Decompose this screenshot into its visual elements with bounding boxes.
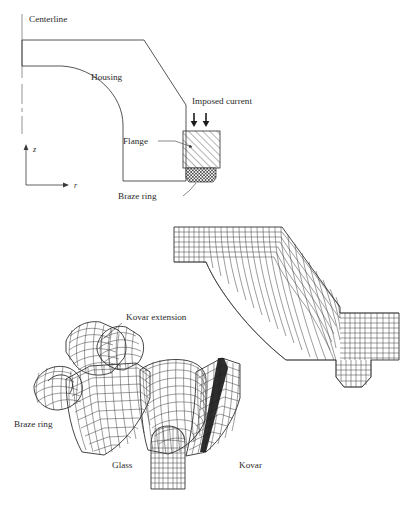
flange-block <box>183 131 220 168</box>
kovar-saddle-body <box>66 363 150 455</box>
kovar-extension-label: Kovar extension <box>126 312 187 322</box>
braze-ring-3d-label: Braze ring <box>14 419 53 429</box>
figure-root: Centerline Housing Flange Braze ring Imp… <box>0 0 404 514</box>
figure-caption <box>0 506 404 514</box>
mesh-flange-extension <box>340 313 399 360</box>
axis-z-label: z <box>32 145 37 154</box>
assembly-3d-mesh: Kovar extension Braze ring Glass Kovar <box>14 312 262 489</box>
flange-label: Flange <box>123 136 148 146</box>
braze-ring-leader <box>183 183 196 196</box>
housing-fe-mesh <box>174 227 399 387</box>
centerline-label: Centerline <box>29 14 67 24</box>
axis-r-label: r <box>74 181 78 190</box>
current-arrow-down-2 <box>203 113 210 127</box>
figure-svg: Centerline Housing Flange Braze ring Imp… <box>0 0 404 514</box>
braze-ring-block <box>186 168 216 182</box>
housing-label: Housing <box>91 72 123 82</box>
imposed-current-label: Imposed current <box>192 96 252 106</box>
kovar-label: Kovar <box>239 460 262 470</box>
braze-ring-label: Braze ring <box>118 191 157 201</box>
housing-outline <box>22 40 186 181</box>
axis-indicator: z r <box>24 144 78 190</box>
imposed-current-arrows <box>191 113 210 127</box>
cross-section-schematic: Centerline Housing Flange Braze ring Imp… <box>22 14 252 201</box>
glass-label: Glass <box>112 460 133 470</box>
current-arrow-down-1 <box>191 113 198 127</box>
